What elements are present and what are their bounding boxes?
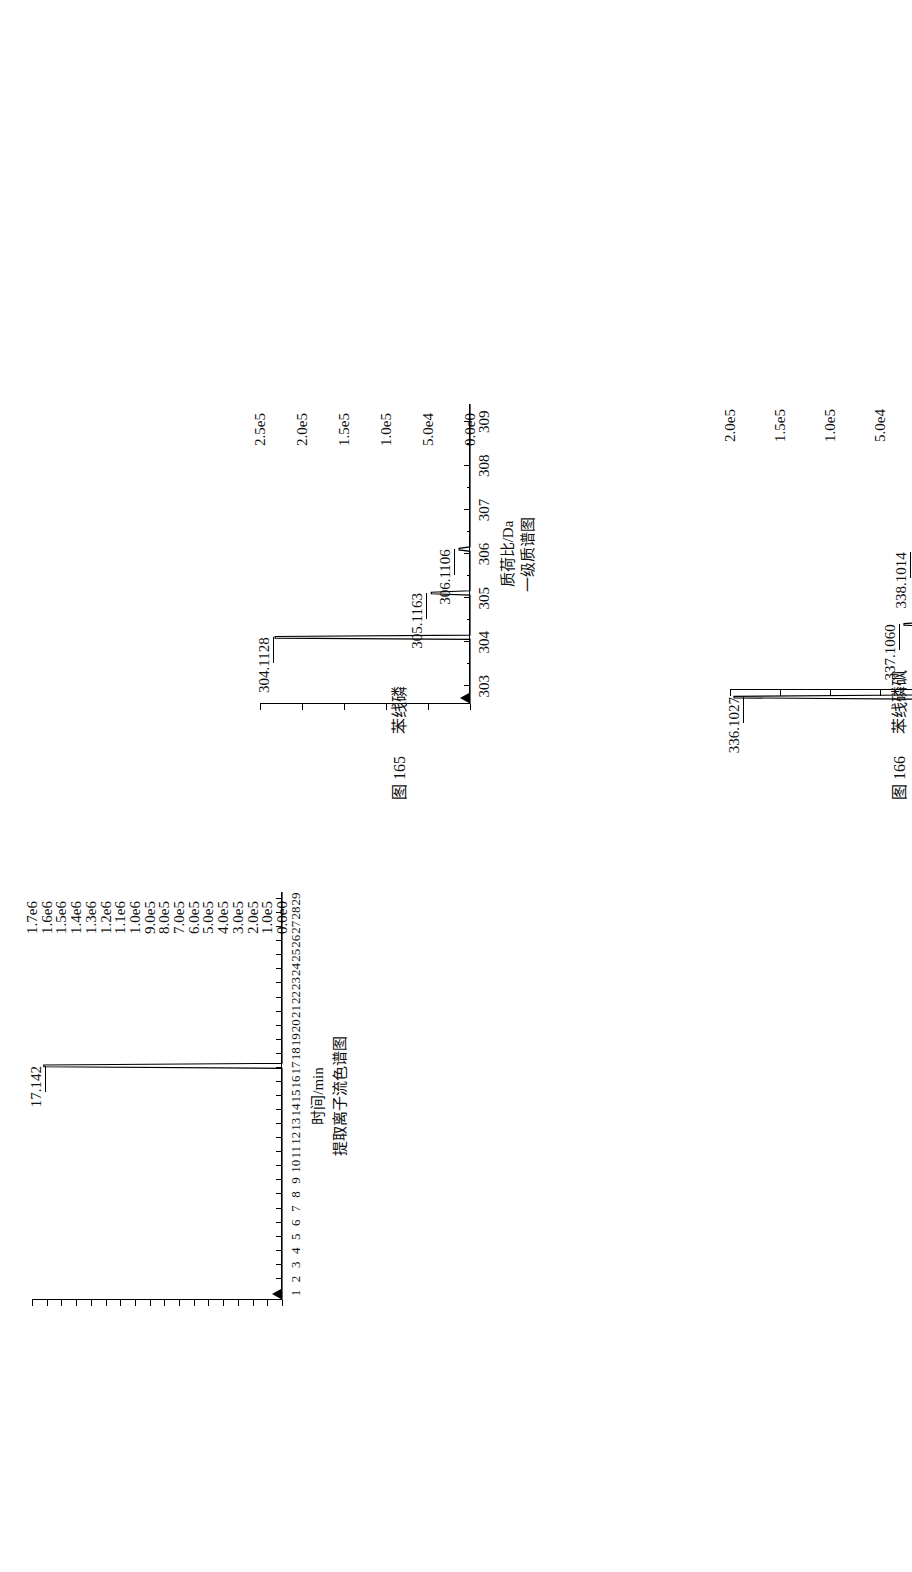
y-tick (267, 1300, 268, 1306)
x-tick-label: 6 (289, 1219, 302, 1226)
x-tick-label: 29 (289, 893, 302, 906)
y-tick (282, 1300, 283, 1306)
x-tick-label: 12 (289, 1132, 302, 1145)
x-tick-label: 303 (477, 675, 492, 698)
eic-165-peak-label: 17.142 (28, 1066, 45, 1107)
x-tick-label: 24 (289, 963, 302, 976)
x-tick-label: 22 (289, 991, 302, 1004)
x-tick-label: 5 (289, 1233, 302, 1240)
ms-165-subcaption: 一级质谱图 (516, 404, 537, 704)
y-tick (253, 1300, 254, 1306)
ms-165-start-marker (460, 693, 469, 703)
scanned-page: 1.7e61.6e61.5e61.4e61.3e61.2e61.1e61.0e6… (0, 0, 912, 1572)
eic-165-peak-leader (45, 1066, 46, 1092)
y-tick (76, 1300, 77, 1306)
x-tick-label: 27 (289, 921, 302, 934)
figure-165-name: 苯线磷 (391, 686, 408, 734)
y-tick (32, 1300, 33, 1306)
ms-165-peak-label-1: 304.1128 (256, 637, 273, 693)
ms-165-leader-3 (454, 549, 455, 575)
x-tick-label: 16 (289, 1075, 302, 1088)
ms-166-leader-1 (743, 697, 744, 723)
eic-165-plot-area: 1.7e61.6e61.5e61.4e61.3e61.2e61.1e61.0e6… (32, 892, 282, 1300)
y-tick (780, 690, 781, 696)
x-tick-label: 17 (289, 1061, 302, 1074)
figure-166-number: 图 166 (891, 756, 908, 800)
figure-165-eic-block: 1.7e61.6e61.5e61.4e61.3e61.2e61.1e61.0e6… (20, 860, 350, 1420)
x-tick-label: 28 (289, 907, 302, 920)
x-tick-label: 26 (289, 935, 302, 948)
y-tick (120, 1300, 121, 1306)
x-tick-label: 20 (289, 1019, 302, 1032)
y-tick (238, 1300, 239, 1306)
x-tick-label: 307 (477, 499, 492, 522)
y-tick (194, 1300, 195, 1306)
x-tick-label: 19 (289, 1033, 302, 1046)
figure-166-name: 苯线磷砜 (891, 670, 908, 734)
x-tick-label: 15 (289, 1090, 302, 1103)
x-tick-label: 304 (477, 631, 492, 654)
figure-165-caption-block: 图 165 苯线磷 (386, 500, 416, 800)
eic-165-trace (32, 892, 282, 1300)
ms-165-leader-2 (426, 593, 427, 619)
x-tick-label: 4 (289, 1248, 302, 1255)
y-tick (730, 690, 731, 696)
ms-165-peak-label-3: 306.1106 (437, 549, 454, 605)
y-tick (260, 704, 261, 710)
x-tick-label: 8 (289, 1191, 302, 1198)
x-tick-label: 14 (289, 1104, 302, 1117)
y-tick (428, 704, 429, 710)
figure-166-caption-block: 图 166 苯线磷砜 (886, 500, 912, 800)
x-tick-label: 306 (477, 543, 492, 566)
y-tick (150, 1300, 151, 1306)
x-tick-label: 11 (289, 1146, 302, 1159)
x-tick-label: 3 (289, 1262, 302, 1269)
y-tick (91, 1300, 92, 1306)
x-tick-label: 23 (289, 977, 302, 990)
figure-166-ms-block: 2.0e51.5e51.0e55.0e40.0e0 336.5337.0337.… (720, 370, 912, 790)
y-tick (164, 1300, 165, 1306)
y-tick (135, 1300, 136, 1306)
ms-165-leader-1 (273, 637, 274, 663)
y-tick (302, 704, 303, 710)
y-tick (208, 1300, 209, 1306)
y-tick (470, 704, 471, 710)
x-tick-label: 2 (289, 1276, 302, 1283)
y-tick (61, 1300, 62, 1306)
y-tick (344, 704, 345, 710)
ms-165-plot-area: 2.5e52.0e51.5e51.0e55.0e40.0e0 303304305… (260, 404, 470, 704)
x-tick-label: 1 (289, 1290, 302, 1297)
ms-165-x-axis-title: 质荷比/Da (496, 404, 517, 704)
eic-165-subcaption: 提取离子流色谱图 (328, 892, 349, 1300)
eic-165-x-axis-title: 时间/min (306, 892, 327, 1300)
figure-165-number: 图 165 (391, 756, 408, 800)
eic-165-start-marker (272, 1289, 281, 1299)
y-tick (106, 1300, 107, 1306)
x-tick-label: 9 (289, 1177, 302, 1184)
ms-166-plot-area: 2.0e51.5e51.0e55.0e40.0e0 336.5337.0337.… (730, 400, 912, 690)
x-tick-label: 21 (289, 1005, 302, 1018)
x-tick-label: 308 (477, 455, 492, 478)
y-tick (179, 1300, 180, 1306)
x-tick-label: 13 (289, 1118, 302, 1131)
x-tick-label: 25 (289, 949, 302, 962)
x-tick-label: 309 (477, 410, 492, 433)
y-tick (223, 1300, 224, 1306)
x-tick-label: 10 (289, 1160, 302, 1173)
x-tick-label: 7 (289, 1205, 302, 1212)
ms-166-peak-label-1: 336.1027 (726, 697, 743, 753)
x-tick-label: 305 (477, 587, 492, 610)
y-tick (47, 1300, 48, 1306)
x-tick-label: 18 (289, 1047, 302, 1060)
